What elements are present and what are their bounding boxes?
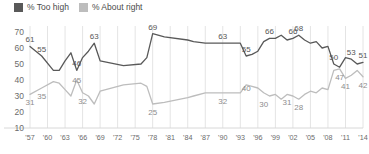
x-axis-tick-label: '66 [78, 133, 87, 142]
data-point-label: 31 [26, 98, 35, 107]
y-axis-tick-label: 40 [15, 75, 25, 85]
y-axis-tick-label: 30 [15, 91, 25, 101]
y-axis-tick-label: 20 [15, 107, 25, 117]
data-point-label: 61 [26, 35, 35, 44]
chart-container: % Too high % About right 70605040302010'… [0, 0, 369, 154]
data-point-label: 25 [148, 108, 157, 117]
data-point-label: 55 [37, 45, 46, 54]
x-axis-tick-label: '75 [130, 133, 139, 142]
x-axis-tick-label: '57 [25, 133, 34, 142]
legend-swatch-too-high [14, 3, 23, 12]
data-point-label: 46 [72, 59, 81, 68]
data-point-label: 69 [148, 23, 157, 32]
line-chart: 70605040302010'57'60'63'66'69'72'75'78'8… [0, 22, 369, 154]
x-axis-tick-label: '93 [236, 133, 245, 142]
y-axis-tick-label: 50 [15, 59, 25, 69]
x-axis-tick-label: '81 [166, 133, 175, 142]
data-point-label: 41 [341, 82, 350, 91]
x-axis-tick-label: '90 [218, 133, 227, 142]
x-axis-tick-label: '69 [95, 133, 104, 142]
data-point-label: 47 [335, 73, 344, 82]
y-axis-tick-label: 60 [15, 43, 25, 53]
data-point-label: 63 [90, 32, 99, 41]
plot-area: 70605040302010'57'60'63'66'69'72'75'78'8… [0, 22, 369, 154]
x-axis-tick-label: '05 [306, 133, 315, 142]
x-axis-tick-label: '11 [341, 133, 350, 142]
data-point-label: 68 [294, 24, 303, 33]
data-point-label: 53 [347, 48, 356, 57]
legend-item-about-right[interactable]: % About right [79, 3, 143, 12]
x-axis-tick-label: '14 [358, 133, 367, 142]
data-point-label: 35 [37, 92, 46, 101]
data-point-label: 55 [242, 45, 251, 54]
x-axis-tick-label: '60 [43, 133, 52, 142]
y-axis-tick-label: 10 [15, 123, 25, 133]
data-point-label: 45 [72, 76, 81, 85]
x-axis-tick-label: '84 [183, 133, 192, 142]
legend-label-too-high: % Too high [27, 3, 69, 12]
data-point-label: 30 [259, 100, 268, 109]
legend-item-too-high[interactable]: % Too high [14, 3, 69, 12]
x-axis-tick-label: '87 [201, 133, 210, 142]
x-axis-tick-label: '63 [60, 133, 69, 142]
chart-legend: % Too high % About right [14, 3, 142, 12]
x-axis-tick-label: '96 [253, 133, 262, 142]
data-point-label: 32 [218, 97, 227, 106]
x-axis-tick-label: '02 [288, 133, 297, 142]
data-point-label: 28 [294, 103, 303, 112]
legend-swatch-about-right [79, 3, 88, 12]
x-axis-tick-label: '72 [113, 133, 122, 142]
x-axis-tick-label: '78 [148, 133, 157, 142]
data-point-label: 50 [329, 53, 338, 62]
legend-label-about-right: % About right [92, 3, 143, 12]
data-point-label: 31 [283, 98, 292, 107]
data-point-label: 32 [78, 97, 87, 106]
x-axis-tick-label: '08 [323, 133, 332, 142]
data-point-label: 42 [359, 81, 368, 90]
data-point-label: 63 [218, 32, 227, 41]
x-axis-tick-label: '99 [271, 133, 280, 142]
data-point-label: 40 [242, 84, 251, 93]
y-axis-tick-label: 70 [15, 27, 25, 37]
data-point-label: 51 [359, 51, 368, 60]
data-point-label: 66 [265, 27, 274, 36]
